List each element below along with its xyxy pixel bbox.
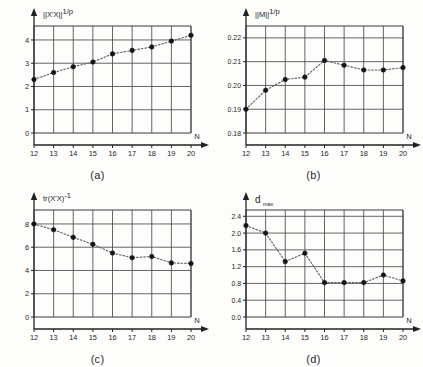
panel-c-caption: (c) bbox=[0, 353, 203, 365]
svg-text:2: 2 bbox=[25, 289, 29, 298]
svg-text:0.20: 0.20 bbox=[228, 82, 242, 89]
panel-d-caption: (d) bbox=[208, 353, 419, 365]
svg-text:18: 18 bbox=[360, 149, 368, 158]
svg-text:6: 6 bbox=[25, 243, 29, 252]
svg-text:20: 20 bbox=[399, 149, 407, 158]
svg-text:0.18: 0.18 bbox=[228, 130, 242, 137]
svg-text:13: 13 bbox=[262, 333, 270, 342]
svg-text:N: N bbox=[406, 132, 411, 141]
svg-text:13: 13 bbox=[50, 333, 58, 342]
svg-text:17: 17 bbox=[128, 149, 136, 158]
panel-b: 0.180.190.200.210.22121314151617181920N|… bbox=[212, 0, 423, 183]
panel-a: 01234121314151617181920N||X'X||1/p (a) bbox=[0, 0, 211, 183]
svg-text:tr(X'X)-1: tr(X'X)-1 bbox=[43, 191, 71, 203]
svg-text:2.0: 2.0 bbox=[231, 230, 241, 237]
svg-text:15: 15 bbox=[89, 333, 97, 342]
panel-a-caption: (a) bbox=[0, 169, 203, 181]
svg-text:14: 14 bbox=[69, 149, 77, 158]
svg-text:8: 8 bbox=[25, 220, 29, 229]
svg-text:0.4: 0.4 bbox=[231, 297, 241, 304]
svg-text:19: 19 bbox=[379, 149, 387, 158]
svg-text:0.8: 0.8 bbox=[231, 280, 241, 287]
svg-text:15: 15 bbox=[301, 149, 309, 158]
svg-text:1.2: 1.2 bbox=[231, 263, 241, 270]
svg-text:18: 18 bbox=[148, 333, 156, 342]
svg-text:max: max bbox=[263, 201, 273, 207]
svg-text:19: 19 bbox=[167, 333, 175, 342]
svg-text:N: N bbox=[194, 132, 199, 141]
svg-text:d: d bbox=[255, 194, 261, 205]
svg-text:12: 12 bbox=[30, 149, 38, 158]
svg-text:16: 16 bbox=[108, 149, 116, 158]
svg-text:12: 12 bbox=[242, 149, 250, 158]
svg-text:N: N bbox=[194, 316, 199, 325]
svg-text:4: 4 bbox=[25, 36, 29, 45]
svg-text:16: 16 bbox=[320, 149, 328, 158]
svg-text:N: N bbox=[406, 316, 411, 325]
svg-text:4: 4 bbox=[25, 266, 29, 275]
svg-text:||X'X||1/p: ||X'X||1/p bbox=[43, 7, 73, 19]
svg-text:14: 14 bbox=[281, 333, 289, 342]
panel-d-plot: 0.00.40.81.21.62.02.4121314151617181920N… bbox=[212, 184, 423, 367]
svg-text:0.22: 0.22 bbox=[228, 34, 242, 41]
svg-text:||M||1/p: ||M||1/p bbox=[255, 7, 280, 19]
svg-text:0.21: 0.21 bbox=[228, 58, 242, 65]
svg-text:2.4: 2.4 bbox=[231, 213, 241, 220]
svg-text:14: 14 bbox=[69, 333, 77, 342]
svg-text:0: 0 bbox=[25, 129, 29, 138]
svg-text:18: 18 bbox=[360, 333, 368, 342]
svg-text:15: 15 bbox=[301, 333, 309, 342]
svg-text:15: 15 bbox=[89, 149, 97, 158]
svg-text:16: 16 bbox=[108, 333, 116, 342]
svg-text:12: 12 bbox=[30, 333, 38, 342]
panel-d: 0.00.40.81.21.62.02.4121314151617181920N… bbox=[212, 184, 423, 367]
svg-text:13: 13 bbox=[50, 149, 58, 158]
svg-text:0: 0 bbox=[25, 313, 29, 322]
svg-text:20: 20 bbox=[399, 333, 407, 342]
svg-text:13: 13 bbox=[262, 149, 270, 158]
panel-c: 02468121314151617181920Ntr(X'X)-1 (c) bbox=[0, 184, 211, 367]
svg-text:16: 16 bbox=[320, 333, 328, 342]
panel-b-plot: 0.180.190.200.210.22121314151617181920N|… bbox=[212, 0, 423, 183]
svg-text:20: 20 bbox=[187, 333, 195, 342]
svg-text:14: 14 bbox=[281, 149, 289, 158]
svg-text:17: 17 bbox=[340, 149, 348, 158]
svg-text:12: 12 bbox=[242, 333, 250, 342]
figure-container: 01234121314151617181920N||X'X||1/p (a) 0… bbox=[0, 0, 423, 367]
svg-text:17: 17 bbox=[340, 333, 348, 342]
svg-text:2: 2 bbox=[25, 82, 29, 91]
svg-text:1: 1 bbox=[25, 105, 29, 114]
svg-text:0.0: 0.0 bbox=[231, 314, 241, 321]
svg-text:20: 20 bbox=[187, 149, 195, 158]
svg-text:17: 17 bbox=[128, 333, 136, 342]
panel-a-plot: 01234121314151617181920N||X'X||1/p bbox=[0, 0, 211, 183]
svg-text:1.6: 1.6 bbox=[231, 246, 241, 253]
svg-text:3: 3 bbox=[25, 59, 29, 68]
svg-text:19: 19 bbox=[379, 333, 387, 342]
svg-text:0.19: 0.19 bbox=[228, 106, 242, 113]
svg-text:18: 18 bbox=[148, 149, 156, 158]
panel-b-caption: (b) bbox=[208, 169, 419, 181]
panel-c-plot: 02468121314151617181920Ntr(X'X)-1 bbox=[0, 184, 211, 367]
svg-text:19: 19 bbox=[167, 149, 175, 158]
